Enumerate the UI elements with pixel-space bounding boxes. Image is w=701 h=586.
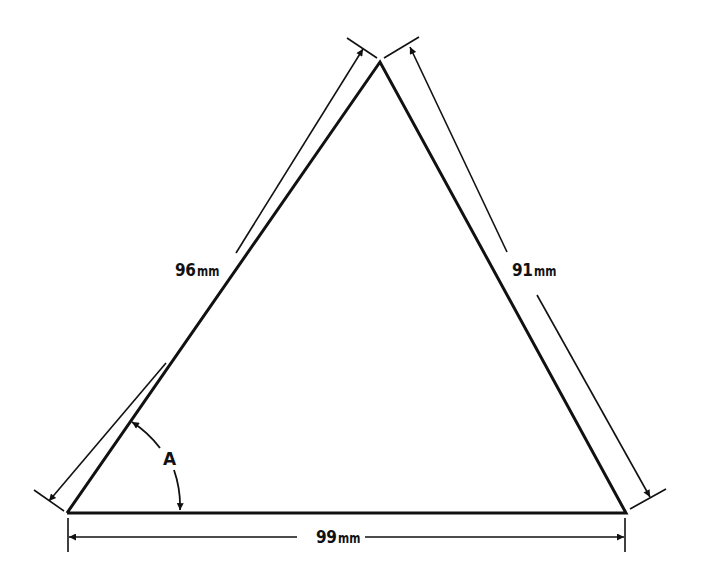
left-side-label: 96mm bbox=[175, 262, 224, 279]
angle-label: A bbox=[162, 451, 177, 468]
bottom-side-value: 99 bbox=[316, 527, 336, 547]
left-side-unit: mm bbox=[197, 264, 219, 278]
triangle-diagram bbox=[0, 0, 701, 586]
right-side-unit: mm bbox=[534, 264, 556, 278]
right-side-value: 91 bbox=[512, 260, 532, 280]
right-side-label: 91mm bbox=[512, 262, 561, 279]
bottom-side-label: 99mm bbox=[316, 529, 365, 546]
bottom-side-unit: mm bbox=[338, 531, 360, 545]
triangle bbox=[67, 62, 626, 513]
left-side-value: 96 bbox=[175, 260, 195, 280]
